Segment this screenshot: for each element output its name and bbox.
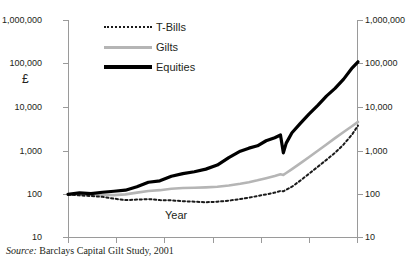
- y-axis-label: £: [22, 72, 29, 86]
- y-tick-label-right-100000: 100,000: [365, 59, 398, 68]
- source-note: Source: Barclays Capital Gilt Study, 200…: [6, 245, 174, 256]
- legend-label-tbills: T-Bills: [156, 21, 186, 33]
- y-tick-label-right-1000: 1,000: [365, 147, 388, 156]
- y-tick-label-left-1000: 1,000: [19, 147, 42, 156]
- y-tick-label-right-100: 100: [365, 190, 380, 199]
- x-tick-1: [116, 238, 117, 243]
- chart-figure: £ 1,000,000 100,000 10,000 1,000 100 10 …: [0, 0, 419, 265]
- legend-label-gilts: Gilts: [156, 41, 178, 53]
- gray-line-key: [104, 46, 152, 49]
- x-tick-0: [68, 238, 69, 243]
- series-line-gilts: [68, 122, 358, 195]
- y-tick-label-left-100000: 100,000: [9, 59, 42, 68]
- x-tick-5: [309, 238, 310, 243]
- dotted-line-key: [104, 26, 152, 28]
- x-tick-4: [261, 238, 262, 243]
- y-tick-label-right-10000: 10,000: [365, 103, 393, 112]
- source-label: Source:: [6, 245, 37, 256]
- legend-item-equities: Equities: [104, 57, 195, 77]
- source-text: Barclays Capital Gilt Study, 2001: [37, 245, 174, 256]
- black-line-key: [104, 65, 152, 69]
- y-tick-right-1000000: [358, 20, 363, 21]
- series-line-equities: [68, 62, 358, 195]
- x-tick-6: [357, 238, 358, 243]
- y-tick-label-left-10000: 10,000: [14, 103, 42, 112]
- y-tick-label-left-100: 100: [27, 190, 42, 199]
- x-tick-2: [164, 238, 165, 243]
- y-tick-label-right-1000000: 1,000,000: [365, 16, 405, 25]
- legend-item-tbills: T-Bills: [104, 17, 195, 37]
- y-tick-label-left-10: 10: [32, 233, 42, 242]
- y-tick-right-100: [358, 194, 363, 195]
- chart-legend: T-Bills Gilts Equities: [104, 17, 195, 77]
- legend-item-gilts: Gilts: [104, 37, 195, 57]
- legend-label-equities: Equities: [156, 61, 195, 73]
- x-tick-3: [213, 238, 214, 243]
- y-tick-right-10: [358, 237, 363, 238]
- y-tick-right-10000: [358, 107, 363, 108]
- y-tick-right-1000: [358, 151, 363, 152]
- y-tick-label-right-10: 10: [365, 233, 375, 242]
- y-tick-label-left-1000000: 1,000,000: [2, 16, 42, 25]
